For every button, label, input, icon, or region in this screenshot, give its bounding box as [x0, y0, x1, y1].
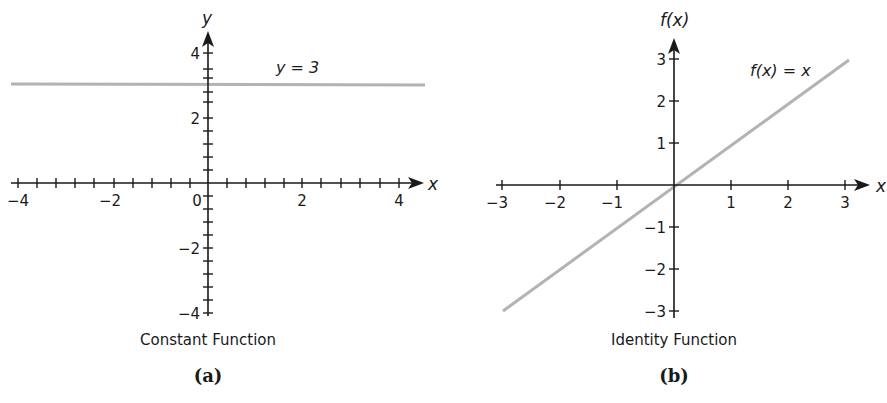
x-tick-label: 4: [394, 192, 404, 210]
y-tick-label: 2: [190, 110, 200, 128]
y-tick-label: 4: [190, 45, 200, 63]
y-tick-label: −4: [178, 305, 200, 323]
x-tick-label: −4: [7, 192, 29, 210]
panel-b-plot: f(x) x f(x) = x −3 −2 −1 1 2 3 3 2 1 −1 …: [486, 10, 887, 321]
constant-line: [11, 84, 425, 85]
panel-b-caption: Identity Function: [611, 331, 737, 349]
figure: y x y = 3 −4 −2 0 2 4 4 2 −2 −4: [0, 0, 887, 403]
panel-b-id: (b): [659, 365, 689, 386]
y-tick-label: −3: [644, 303, 666, 321]
x-tick-label: 2: [783, 194, 793, 212]
y-axis-label-a: y: [201, 8, 213, 28]
y-tick-label: −2: [178, 240, 200, 258]
x-tick-label: −2: [544, 194, 566, 212]
function-label-b: f(x) = x: [750, 61, 811, 80]
x-axis-label-b: x: [875, 176, 887, 196]
y-axis-label-b: f(x): [660, 10, 689, 30]
y-tick-label: 1: [656, 135, 666, 153]
y-tick-label: −2: [644, 261, 666, 279]
panel-a-caption: Constant Function: [140, 331, 276, 349]
y-tick-label: 3: [656, 51, 666, 69]
x-tick-label: −1: [601, 194, 623, 212]
y-tick-label: 2: [656, 93, 666, 111]
y-tick-label: −1: [644, 219, 666, 237]
x-tick-label: −2: [99, 192, 121, 210]
x-tick-label: 2: [297, 192, 307, 210]
x-axis-label-a: x: [427, 174, 439, 194]
panel-a-id: (a): [194, 365, 223, 386]
panel-a-plot: y x y = 3 −4 −2 0 2 4 4 2 −2 −4: [7, 8, 439, 323]
chart-canvas: y x y = 3 −4 −2 0 2 4 4 2 −2 −4: [0, 0, 887, 403]
x-tick-label: 3: [840, 194, 850, 212]
function-label-a: y = 3: [275, 58, 319, 77]
x-tick-label: 0: [192, 192, 202, 210]
x-tick-label: −3: [486, 194, 508, 212]
x-tick-label: 1: [726, 194, 736, 212]
